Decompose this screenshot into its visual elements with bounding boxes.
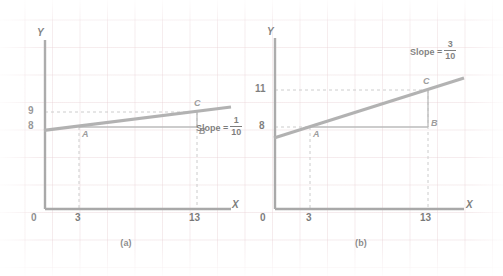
x-tick-3: 3	[306, 212, 312, 223]
slope-denominator: 10	[444, 52, 456, 61]
x-axis-label: X	[232, 199, 239, 210]
panel-caption-a: (a)	[120, 238, 132, 248]
slope-fraction: 3 10	[444, 40, 456, 61]
panel-b-plot	[251, 0, 503, 276]
panel-b: Y X 11 8 0 3 13 A B C Slope = 3 10 (b)	[251, 0, 503, 276]
panel-a: Y X 9 8 0 3 13 A B C Slope = 1 10 (a)	[0, 0, 252, 276]
point-label-b: B	[431, 118, 438, 128]
point-label-c: C	[194, 98, 201, 108]
y-axis-label: Y	[267, 26, 274, 37]
figure-canvas: Y X 9 8 0 3 13 A B C Slope = 1 10 (a)	[0, 0, 503, 276]
y-tick-8: 8	[28, 120, 34, 131]
y-tick-8: 8	[259, 120, 265, 131]
origin-label: 0	[31, 212, 37, 223]
slope-numerator: 3	[447, 40, 454, 49]
slope-numerator: 1	[233, 116, 240, 125]
x-axis-label: X	[466, 199, 473, 210]
y-axis-label: Y	[37, 27, 44, 38]
slope-text: Slope =	[196, 123, 228, 133]
y-tick-9: 9	[28, 105, 34, 116]
slope-annotation: Slope = 1 10	[196, 117, 242, 138]
slope-text: Slope =	[410, 47, 442, 57]
point-label-c: C	[423, 76, 430, 86]
slope-fraction: 1 10	[230, 116, 242, 137]
slope-annotation: Slope = 3 10	[410, 41, 456, 62]
x-tick-13: 13	[189, 212, 200, 223]
slope-line	[274, 78, 464, 138]
x-tick-3: 3	[75, 212, 81, 223]
y-tick-11: 11	[255, 83, 266, 94]
slope-denominator: 10	[230, 128, 242, 137]
point-label-a: A	[82, 129, 89, 139]
origin-label: 0	[260, 212, 266, 223]
x-tick-13: 13	[420, 212, 431, 223]
panel-caption-b: (b)	[355, 238, 367, 248]
point-label-a: A	[313, 129, 320, 139]
